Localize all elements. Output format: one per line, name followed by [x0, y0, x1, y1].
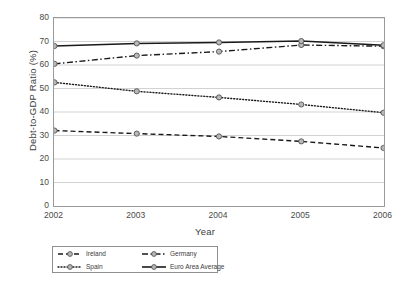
legend-item-ireland[interactable]: Ireland — [53, 247, 137, 260]
legend-swatch-dashed — [57, 249, 83, 259]
data-point — [381, 145, 384, 150]
legend-item-spain[interactable]: Spain — [53, 260, 137, 273]
data-point — [54, 43, 57, 48]
data-point — [54, 128, 57, 133]
legend-item-euro-area-average[interactable]: Euro Area Average — [137, 260, 219, 273]
data-point — [54, 61, 57, 66]
y-tick-label: 30 — [9, 130, 49, 140]
plot-area — [53, 17, 385, 207]
legend-swatch-dotted — [57, 262, 83, 272]
data-point — [216, 134, 221, 139]
chart-container: Debt-to-GDP Ratio (%) 01020304050607080 … — [0, 0, 410, 295]
y-tick-label: 40 — [9, 106, 49, 116]
legend-label: Germany — [170, 250, 197, 257]
y-tick-label: 70 — [9, 36, 49, 46]
data-point — [216, 40, 221, 45]
legend-item-germany[interactable]: Germany — [137, 247, 219, 260]
legend-label: Ireland — [86, 250, 106, 257]
legend-swatch-dash-dot — [141, 249, 167, 259]
y-tick-label: 60 — [9, 59, 49, 69]
y-tick-label: 50 — [9, 83, 49, 93]
data-point — [134, 131, 139, 136]
x-tick-label: 2004 — [188, 210, 248, 220]
data-point — [299, 102, 304, 107]
y-tick-label: 80 — [9, 12, 49, 22]
x-tick-label: 2006 — [353, 210, 410, 220]
y-tick-label: 0 — [9, 200, 49, 210]
y-tick-label: 10 — [9, 177, 49, 187]
data-point — [134, 41, 139, 46]
data-point — [134, 89, 139, 94]
legend-label: Spain — [86, 263, 103, 270]
x-axis-title: Year — [0, 226, 410, 237]
legend-swatch-solid — [141, 262, 167, 272]
data-point — [216, 49, 221, 54]
x-tick-label: 2003 — [106, 210, 166, 220]
data-point — [299, 38, 304, 43]
data-point — [216, 95, 221, 100]
data-point — [381, 110, 384, 115]
x-tick-label: 2005 — [270, 210, 330, 220]
y-tick-label: 20 — [9, 153, 49, 163]
data-point — [381, 43, 384, 48]
chart-legend: IrelandGermanySpainEuro Area Average — [52, 246, 218, 273]
data-point — [54, 80, 57, 85]
data-point — [134, 53, 139, 58]
plot-svg — [54, 18, 384, 206]
x-tick-label: 2002 — [24, 210, 84, 220]
legend-label: Euro Area Average — [170, 263, 224, 270]
data-point — [299, 139, 304, 144]
